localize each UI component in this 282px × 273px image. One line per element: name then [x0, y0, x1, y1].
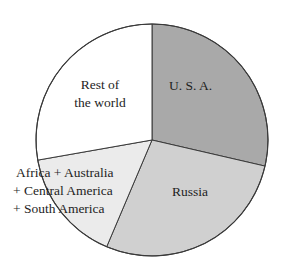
label-africa-line1: Africa + Australia [13, 164, 114, 182]
label-usa-text: U. S. A. [169, 78, 212, 93]
label-russia: Russia [172, 183, 208, 201]
label-rest-of-world: Rest of the world [72, 76, 128, 112]
pie-slices [36, 24, 268, 256]
label-usa: U. S. A. [169, 77, 212, 95]
label-africa-line2: + Central America [13, 182, 114, 200]
label-russia-text: Russia [172, 184, 208, 199]
pie-chart [0, 0, 282, 273]
label-rest-line2: the world [72, 94, 128, 112]
label-africa-australia-americas: Africa + Australia + Central America + S… [13, 164, 114, 218]
label-rest-line1: Rest of [72, 76, 128, 94]
label-africa-line3: + South America [13, 200, 114, 218]
